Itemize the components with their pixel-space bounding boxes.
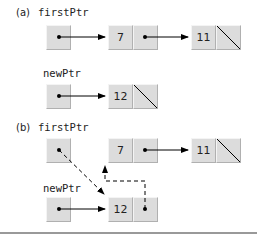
bottom-divider <box>0 232 257 234</box>
pointer-arrows <box>0 0 257 236</box>
